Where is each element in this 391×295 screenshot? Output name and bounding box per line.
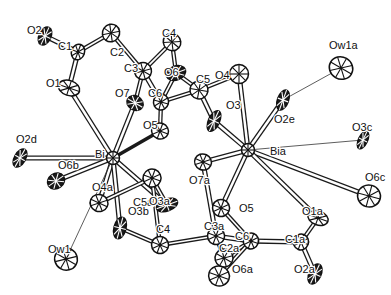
bond-O2e-Ow1a (286, 71, 336, 99)
atom-label-C3: C3 (124, 62, 138, 74)
atom-Ow1a[interactable] (325, 52, 357, 83)
atom-C4b[interactable] (149, 234, 171, 256)
bond-layer (23, 34, 364, 273)
atom-O6b[interactable] (44, 170, 67, 193)
atom-label-C1: C1 (58, 40, 72, 52)
atom-O3b[interactable] (111, 216, 128, 240)
atom-label-O3a: O3a (149, 195, 171, 207)
atom-label-O4: O4 (215, 69, 230, 81)
atom-label-O1a: O1a (302, 205, 324, 217)
atom-label-C1a: C1a (285, 233, 306, 245)
bond-O3c-Bia (252, 140, 361, 149)
atom-label-Ow1a: Ow1a (329, 39, 359, 51)
atom-label-O5: O5 (143, 119, 158, 131)
atom-label-O5a: O5 (239, 202, 254, 214)
atom-label-C2: C2 (110, 46, 124, 58)
atom-label-C4b: C4 (156, 223, 170, 235)
atom-O6c[interactable] (355, 182, 383, 209)
atom-label-O6c: O6c (365, 171, 386, 183)
atom-O4[interactable] (230, 65, 249, 84)
bond-O4-Bia (238, 79, 250, 147)
atom-label-O3c: O3c (352, 121, 373, 133)
bond-O5a-Bia (221, 152, 248, 204)
atom-label-Ow1: Ow1 (48, 243, 71, 255)
atom-label-O1: O1 (46, 77, 61, 89)
bond-O7a-Bia (207, 149, 245, 163)
atom-O2e[interactable] (274, 88, 292, 111)
atom-Bia[interactable] (242, 144, 255, 157)
atom-label-O3b: O3b (128, 205, 149, 217)
atom-label-O2e: O2e (274, 113, 295, 125)
atom-label-O7a: O7a (189, 174, 211, 186)
atom-label-C5: C5 (196, 73, 210, 85)
atom-label-C3a: C3a (204, 220, 225, 232)
atom-label-O6b: O6b (58, 159, 79, 171)
atom-label-O7: O7 (115, 87, 130, 99)
atom-label-O2a: O2a (294, 263, 316, 275)
crystal-structure-canvas: O2C1C2O1C3C4O6C5O4C6O7O3O5Ow1aO2eO3cO6cO… (0, 0, 391, 295)
ortep-figure: O2C1C2O1C3C4O6C5O4C6O7O3O5Ow1aO2eO3cO6cO… (0, 0, 391, 295)
atom-label-O6a: O6a (232, 263, 254, 275)
atom-Bi[interactable] (107, 152, 120, 165)
bond-O3-Bia (215, 122, 246, 150)
atom-label-C6: C6 (148, 87, 162, 99)
atom-O7a[interactable] (192, 151, 214, 173)
atom-label-O2: O2 (27, 24, 42, 36)
atom-label-O6: O6 (164, 66, 179, 78)
atom-label-C6a: C6 (235, 230, 249, 242)
bond-C4b-O3b (122, 228, 156, 245)
atom-label-O3: O3 (226, 99, 241, 111)
atom-label-Bia: Bia (270, 145, 287, 157)
atom-label-Bi: Bi (95, 148, 105, 160)
atom-label-O2d: O2d (16, 133, 37, 145)
atom-O4a[interactable] (87, 191, 110, 214)
atom-label-O4a: O4a (92, 181, 114, 193)
bond-C3a-C4b (164, 235, 211, 245)
bond-O1-Bi (70, 90, 113, 156)
atom-label-C2a: C2a (219, 242, 240, 254)
atom-label-C4: C4 (162, 27, 176, 39)
atom-O2d[interactable] (10, 147, 30, 170)
